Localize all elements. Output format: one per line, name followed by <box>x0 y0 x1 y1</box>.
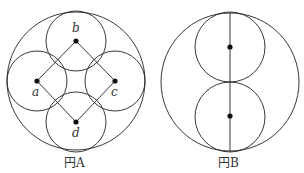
label-c: c <box>111 85 118 99</box>
point-c <box>112 78 117 83</box>
point-lower-center <box>227 113 232 118</box>
figure-circle-b: 円B <box>161 12 299 170</box>
label-a: a <box>32 85 39 99</box>
figure-circle-a: b a c d 円A <box>7 11 145 170</box>
diagram-canvas: b a c d 円A 円B <box>0 0 304 173</box>
label-d: d <box>72 126 80 140</box>
point-b <box>73 38 78 43</box>
label-b: b <box>72 21 80 35</box>
caption-a: 円A <box>64 156 85 170</box>
point-a <box>34 78 39 83</box>
point-d <box>73 119 78 124</box>
caption-b: 円B <box>218 156 239 170</box>
point-upper-center <box>227 44 232 49</box>
